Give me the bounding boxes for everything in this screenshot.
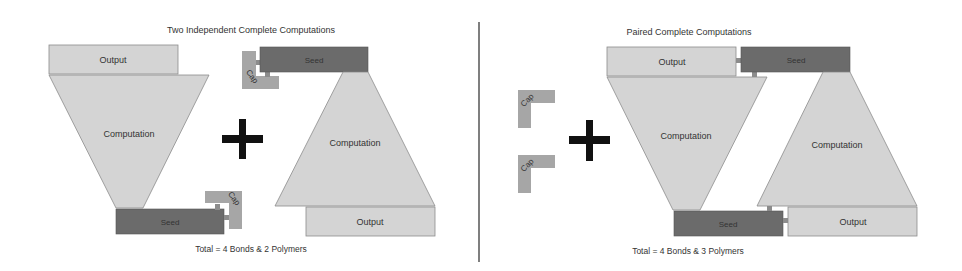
- computation-label: Computation: [660, 131, 711, 141]
- left-polymer-b: Cap Seed Computation Output: [242, 47, 435, 236]
- bond-stub: [215, 204, 220, 210]
- seed-label: Seed: [305, 56, 324, 65]
- bond-stub: [752, 72, 757, 77]
- bond-stub: [767, 206, 772, 211]
- seed-label: Seed: [161, 218, 180, 227]
- bond-stub: [256, 60, 260, 65]
- computation-trapezoid: [49, 75, 209, 208]
- left-panel: Two Independent Complete Computations Ou…: [49, 25, 435, 254]
- right-panel: Paired Complete Computations Cap Cap Out…: [518, 27, 917, 256]
- cap-shape: [518, 90, 555, 128]
- computation-label: Computation: [103, 129, 154, 139]
- bond-stub: [224, 215, 229, 220]
- bond-stub: [265, 72, 270, 77]
- computation-trapezoid: [607, 77, 767, 210]
- left-panel-title: Two Independent Complete Computations: [167, 25, 336, 35]
- diagram-canvas: Two Independent Complete Computations Ou…: [0, 0, 962, 271]
- left-panel-total: Total = 4 Bonds & 2 Polymers: [195, 244, 307, 254]
- right-panel-total: Total = 4 Bonds & 3 Polymers: [632, 246, 744, 256]
- free-cap-2: Cap: [518, 155, 555, 193]
- seed-label: Seed: [787, 56, 806, 65]
- cap-shape: [518, 155, 555, 193]
- plus-icon: [569, 120, 610, 161]
- output-label: Output: [658, 57, 686, 67]
- computation-label: Computation: [329, 138, 380, 148]
- left-polymer-a: Output Computation Seed Cap: [49, 45, 242, 234]
- seed-label: Seed: [719, 220, 738, 229]
- free-cap-1: Cap: [518, 90, 555, 128]
- output-label: Output: [356, 217, 384, 227]
- right-panel-title: Paired Complete Computations: [626, 27, 752, 37]
- bond-stub: [783, 218, 788, 223]
- computation-label: Computation: [811, 140, 862, 150]
- plus-icon: [222, 119, 263, 159]
- output-label: Output: [839, 217, 867, 227]
- bond-stub: [736, 58, 741, 63]
- computation-trapezoid: [757, 72, 917, 206]
- output-label: Output: [99, 55, 127, 65]
